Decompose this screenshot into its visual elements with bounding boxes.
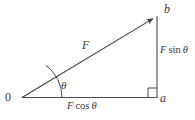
force-magnitude-label: F [82, 39, 89, 51]
angle-theta-label: θ [61, 80, 66, 91]
horizontal-component-label: Fcosθ [67, 101, 97, 112]
horizontal-component-angle: θ [91, 100, 96, 111]
point-b-label: b [164, 3, 170, 15]
vertical-component-function: sin [168, 44, 180, 55]
vertical-component-label: Fsinθ [160, 45, 188, 56]
force-vector-diagram: 0 b a F θ Fsinθ Fcosθ [0, 0, 195, 120]
vertical-component-variable: F [160, 44, 166, 55]
right-angle-marker [148, 88, 157, 97]
vertical-component-angle: θ [183, 44, 188, 55]
horizontal-component-variable: F [67, 100, 73, 111]
horizontal-component-function: cos [75, 100, 89, 111]
force-vector-arrow [22, 19, 153, 98]
point-a-label: a [160, 92, 166, 104]
origin-label: 0 [5, 91, 11, 103]
